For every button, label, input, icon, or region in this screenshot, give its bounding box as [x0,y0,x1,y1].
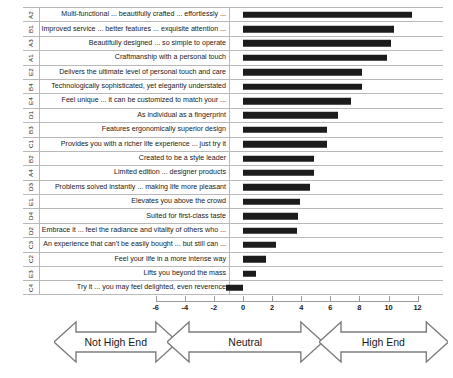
bar-cell [230,209,443,222]
bar [243,40,391,47]
axis-tick [243,296,244,302]
table-row: E2Delivers the ultimate level of persona… [23,65,443,79]
bar-cell [230,253,443,266]
axis-line [156,301,418,302]
bar [243,98,351,105]
row-code-label: B2 [28,155,34,163]
scale-band-neutral: Neutral [167,320,323,364]
table-row: A2Multi-functional ... beautifully craft… [23,7,443,21]
bar [243,213,298,220]
scale-band-label: Not High End [85,336,147,348]
table-row: B2Created to be a style leader [23,151,443,165]
statement-cell: Delivers the ultimate level of personal … [40,66,230,79]
statement-cell: Feel unique ... it can be customized to … [40,94,230,107]
statement-cell: Improved service ... better features ...… [40,22,230,35]
bar [243,69,362,76]
row-code-label: A2 [28,11,34,19]
x-axis: -6-4-2024681012 [0,295,453,317]
table-row: B3Features ergonomically superior design [23,122,443,136]
scale-band-label: High End [362,336,405,348]
axis-tick-label: 8 [357,303,361,312]
scale-band-not-high-end: Not High End [54,320,178,364]
bar-cell [230,181,443,194]
statement-cell: Provides you with a richer life experien… [40,138,230,151]
statement-label: Feel unique ... it can be customized to … [62,97,226,104]
bar [243,112,338,119]
statement-label: Suited for first-class taste [146,213,226,220]
bar-cell [230,51,443,64]
statement-cell: Problems solved instantly ... making lif… [40,181,230,194]
bar-cell [230,123,443,136]
row-code-cell: D3 [23,181,40,194]
statement-label: Features ergonomically superior design [102,126,226,133]
statement-label: Lifts you beyond the mass [144,270,226,277]
row-code-label: B4 [28,83,34,91]
row-code-cell: E1 [23,195,40,208]
statement-label: Craftmanship with a personal touch [115,54,226,61]
bar [226,284,243,291]
bar-cell [230,109,443,122]
row-code-label: D1 [28,111,34,119]
row-code-cell: E2 [23,66,40,79]
statement-cell: An experience that can't be easily bough… [40,238,230,251]
bar-cell [230,94,443,107]
statement-cell: Embrace it ... feel the radiance and vit… [40,224,230,237]
row-code-cell: C4 [23,281,40,293]
statement-cell: Suited for first-class taste [40,209,230,222]
axis-tick [156,296,157,302]
axis-tick-label: 10 [384,303,392,312]
row-code-label: E1 [28,198,34,206]
row-code-label: C4 [28,284,34,292]
statement-label: Provides you with a richer life experien… [61,141,226,148]
row-code-cell: C3 [23,238,40,251]
table-row: A3Beautifully designed ... so simple to … [23,36,443,50]
bar [243,155,314,162]
statement-label: Technologically sophisticated, yet elega… [51,83,226,90]
axis-tick [389,296,390,302]
high-end-perception-chart: A2Multi-functional ... beautifully craft… [0,0,453,378]
statement-label: Feel your life in a more intense way [114,256,226,263]
statement-label: Improved service ... better features ...… [41,26,226,33]
table-row: B4Technologically sophisticated, yet ele… [23,79,443,93]
statement-cell: Created to be a style leader [40,152,230,165]
table-row: C3An experience that can't be easily bou… [23,237,443,251]
scale-band-label: Neutral [228,336,262,348]
row-code-label: E2 [28,68,34,76]
table-row: D4Suited for first-class taste [23,208,443,222]
bar-cell [230,281,443,293]
bar [243,184,310,191]
bar-cell [230,238,443,251]
axis-tick-label: 6 [328,303,332,312]
statement-cell: Multi-functional ... beautifully crafted… [40,8,230,21]
axis-tick [359,296,360,302]
row-code-cell: B1 [23,22,40,35]
table-row: C4Try it ... you may feel delighted, eve… [23,280,443,294]
bar [243,199,300,206]
row-code-label: A3 [28,40,34,48]
statement-rows: A2Multi-functional ... beautifully craft… [23,7,443,295]
bar [243,11,412,18]
row-code-label: E4 [28,97,34,105]
row-code-cell: A3 [23,37,40,50]
row-code-label: A4 [28,169,34,177]
axis-tick [214,296,215,302]
statement-label: An experience that can't be easily bough… [43,241,226,248]
axis-tick [418,296,419,302]
table-row: E4Feel unique ... it can be customized t… [23,93,443,107]
statement-cell: Lifts you beyond the mass [40,267,230,280]
row-code-label: D4 [28,212,34,220]
table-row: E1Elevates you above the crowd [23,194,443,208]
bar [243,227,297,234]
statement-label: Multi-functional ... beautifully crafted… [61,11,226,18]
table-row: B1Improved service ... better features .… [23,21,443,35]
table-row: D3Problems solved instantly ... making l… [23,180,443,194]
row-code-label: C1 [28,140,34,148]
statement-label: Embrace it ... feel the radiance and vit… [42,227,226,234]
statement-label: Try it ... you may feel delighted, even … [77,284,226,291]
table-row: A1Craftmanship with a personal touch [23,50,443,64]
row-code-label: B1 [28,25,34,33]
row-code-label: C3 [28,241,34,249]
statement-cell: Feel your life in a more intense way [40,253,230,266]
statement-cell: Craftmanship with a personal touch [40,51,230,64]
axis-tick [330,296,331,302]
